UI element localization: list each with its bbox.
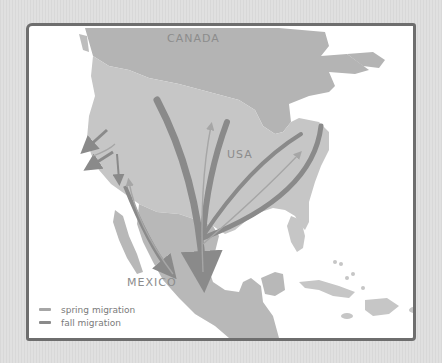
yucatan [261, 272, 285, 296]
fall-swatch [39, 321, 51, 324]
label-usa: USA [227, 148, 253, 161]
legend-item-spring: spring migration [39, 303, 135, 316]
label-mexico: MEXICO [127, 276, 177, 289]
cuba [299, 280, 355, 298]
hispaniola [365, 298, 399, 316]
legend-item-fall: fall migration [39, 316, 135, 329]
jamaica [341, 313, 353, 319]
puerto-rico [409, 307, 413, 313]
legend-label-spring: spring migration [61, 305, 135, 315]
north-america-map [29, 26, 413, 338]
map-frame: CANADA USA MEXICO spring migration fall … [26, 23, 416, 341]
legend: spring migration fall migration [39, 303, 135, 329]
label-canada: CANADA [167, 32, 220, 45]
spring-swatch [39, 308, 51, 311]
legend-label-fall: fall migration [61, 318, 121, 328]
